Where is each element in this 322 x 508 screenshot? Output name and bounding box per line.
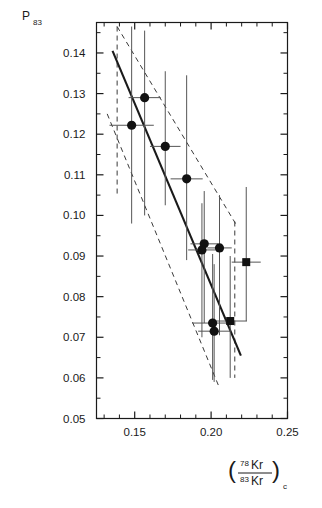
data-point-circle xyxy=(127,121,136,130)
x-tick-label: 0.25 xyxy=(276,426,298,438)
y-axis-title-subscript: 83 xyxy=(33,18,42,27)
x-axis-title-numerator-superscript: 78 xyxy=(240,459,249,468)
data-point-circle xyxy=(197,245,206,254)
x-tick-label: 0.15 xyxy=(124,426,146,438)
x-axis-title-close-paren: ) xyxy=(272,456,280,483)
scatter-plot-svg: 0.150.200.25 0.050.060.070.080.090.100.1… xyxy=(0,0,322,508)
data-point-circle xyxy=(182,174,191,183)
y-axis-tick-labels: 0.050.060.070.080.090.100.110.120.130.14 xyxy=(63,47,86,425)
data-point-circle xyxy=(161,142,170,151)
x-tick-label: 0.20 xyxy=(200,426,222,438)
y-tick-label: 0.12 xyxy=(63,128,85,140)
data-point-circle xyxy=(140,93,149,102)
x-axis-title-open-paren: ( xyxy=(228,456,236,483)
y-axis-title-base: P xyxy=(22,9,30,23)
y-tick-label: 0.05 xyxy=(63,413,85,425)
y-tick-label: 0.13 xyxy=(63,88,85,100)
y-tick-label: 0.08 xyxy=(63,291,85,303)
data-point-circle xyxy=(215,243,224,252)
x-axis-title-denominator-superscript: 83 xyxy=(240,475,249,484)
y-tick-label: 0.07 xyxy=(63,331,85,343)
error-bars xyxy=(109,27,260,382)
y-tick-label: 0.06 xyxy=(63,372,85,384)
y-axis-title: P 83 xyxy=(22,9,42,27)
y-tick-label: 0.10 xyxy=(63,209,85,221)
y-tick-label: 0.14 xyxy=(63,47,86,59)
y-tick-label: 0.09 xyxy=(63,250,85,262)
data-point-circle xyxy=(208,318,217,327)
x-axis-title-denominator-base: Kr xyxy=(251,474,263,488)
x-axis-title-subscript: c xyxy=(283,482,287,491)
chart-figure: 0.150.200.25 0.050.060.070.080.090.100.1… xyxy=(0,0,322,508)
y-tick-label: 0.11 xyxy=(64,169,86,181)
x-axis-title: ( 78 Kr 83 Kr ) c xyxy=(228,456,287,491)
data-point-square xyxy=(226,317,234,325)
x-axis-title-numerator-base: Kr xyxy=(251,458,263,472)
data-point-square xyxy=(242,258,250,266)
data-point-circle xyxy=(210,327,219,336)
x-axis-tick-labels: 0.150.200.25 xyxy=(124,426,299,438)
y-axis-ticks xyxy=(97,33,288,419)
